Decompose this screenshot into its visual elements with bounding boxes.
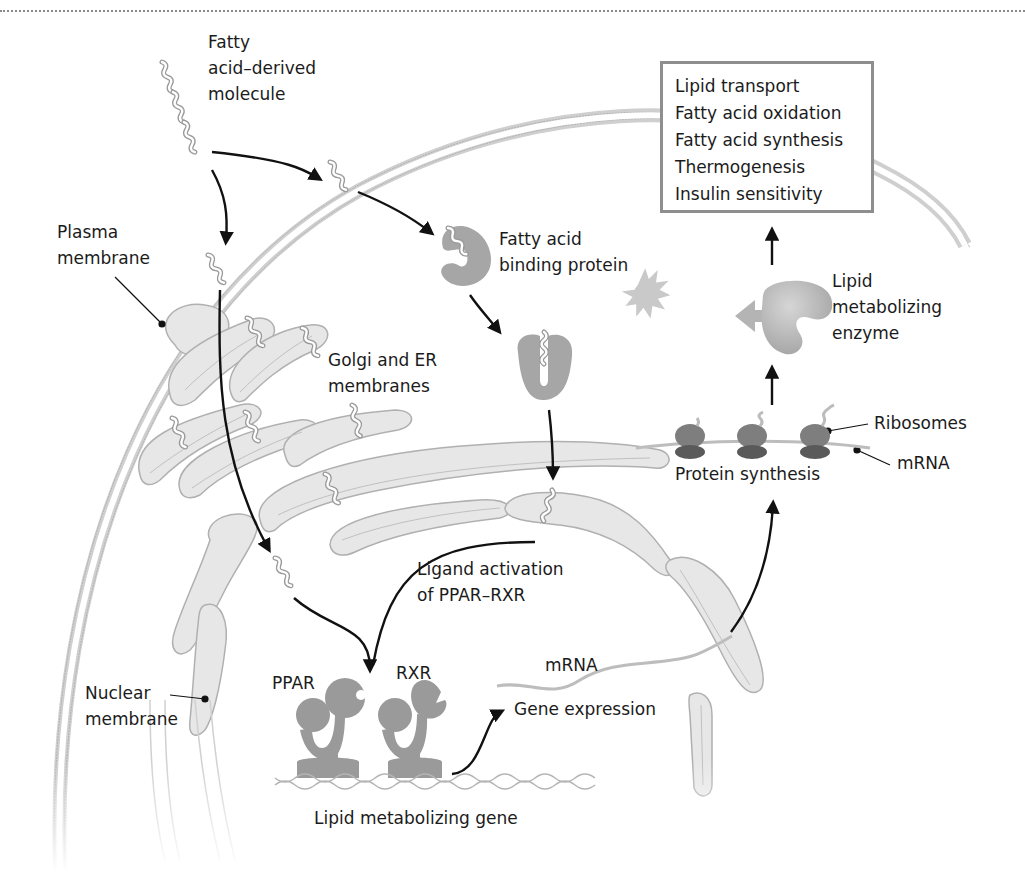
ribosome-1: [675, 418, 705, 459]
ribosomes-on-mrna: [636, 405, 870, 459]
ribosome-3: [800, 405, 834, 459]
label-mrna-cytoplasm: mRNA: [897, 450, 950, 476]
label-mrna-nucleus: mRNA: [545, 652, 598, 678]
outcome-item: Thermogenesis: [675, 154, 871, 181]
label-lipid-metabolizing-enzyme: Lipid metabolizing enzyme: [832, 268, 942, 346]
golgi-er-membranes: [139, 304, 763, 796]
label-ligand-activation: Ligand activation of PPAR–RXR: [417, 556, 564, 608]
outcome-item: Insulin sensitivity: [675, 181, 871, 208]
nuclear-mrna-strand: [497, 636, 732, 689]
label-golgi-er-membranes: Golgi and ER membranes: [328, 347, 437, 399]
label-protein-synthesis: Protein synthesis: [675, 461, 820, 487]
label-fatty-acid-binding-protein: Fatty acid binding protein: [499, 226, 628, 278]
ribosome-2: [737, 412, 767, 459]
label-plasma-membrane: Plasma membrane: [57, 219, 150, 271]
label-rxr: RXR: [396, 660, 431, 686]
label-fatty-acid-derived-molecule: Fatty acid–derived molecule: [208, 29, 316, 107]
label-ribosomes: Ribosomes: [874, 410, 967, 436]
fabp-protein-2: [518, 332, 573, 400]
label-gene-expression: Gene expression: [514, 696, 656, 722]
fabp-protein-1: [441, 226, 491, 286]
rxr-protein: [378, 680, 446, 778]
label-lipid-metabolizing-gene: Lipid metabolizing gene: [314, 805, 518, 831]
label-ppar: PPAR: [272, 670, 315, 696]
lipid-metabolizing-enzyme: [622, 268, 832, 354]
outcome-item: Fatty acid synthesis: [675, 127, 871, 154]
label-nuclear-membrane: Nuclear membrane: [85, 680, 178, 732]
metabolic-outcomes-box: Lipid transport Fatty acid oxidation Fat…: [660, 61, 874, 213]
outcome-item: Fatty acid oxidation: [675, 100, 871, 127]
outcome-item: Lipid transport: [675, 73, 871, 100]
